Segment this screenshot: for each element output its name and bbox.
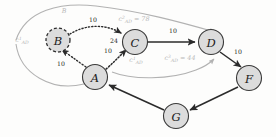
annotation-c3-ad-mid: c3AD = 44 <box>165 54 196 63</box>
annotation-c1-ad-left: c1AD <box>15 36 29 45</box>
edge-a-to-b <box>62 50 86 67</box>
annotation-arc-mid <box>112 59 214 78</box>
node-C[interactable]: C <box>123 30 148 55</box>
node-G[interactable]: G <box>164 104 189 129</box>
node-F[interactable]: F <box>237 66 262 91</box>
node-B-label: B <box>53 34 62 48</box>
annotation-arcs <box>16 5 215 86</box>
edge-b-to-c <box>70 26 121 34</box>
weight-b-to-c: 10 <box>89 16 97 23</box>
edge-f-to-g <box>190 87 238 110</box>
node-B[interactable]: B <box>46 28 70 52</box>
annotation-b-marker-top: B <box>61 7 67 15</box>
node-D[interactable]: D <box>199 30 224 55</box>
dotted-edges <box>62 26 126 69</box>
weight-inbound-c: 24 <box>110 37 118 44</box>
weight-d-to-f: 10 <box>234 48 242 55</box>
node-F-label: F <box>244 72 254 86</box>
node-C-label: C <box>131 36 140 50</box>
weight-c-to-d: 10 <box>169 27 177 34</box>
node-A-label: A <box>90 71 99 85</box>
node-A[interactable]: A <box>83 65 108 90</box>
edge-g-to-a <box>109 85 164 110</box>
graph-svg: A B C D F G 10 <box>0 0 276 137</box>
annotation-c1-ad-mid: c1AD <box>129 56 143 65</box>
annotation-arc-outer-bottom <box>16 44 84 86</box>
weight-a-to-b: 10 <box>57 60 65 67</box>
node-D-label: D <box>205 36 215 50</box>
weight-a-to-c: 10 <box>104 47 112 54</box>
annotation-arc-outer-top <box>16 5 215 40</box>
node-G-label: G <box>171 110 180 124</box>
cost-annotations: c1AD c2AD = 78 c1AD c3AD = 44 B <box>15 7 195 65</box>
annot-sub-0: AD <box>21 40 29 45</box>
annotation-c2-ad-top: c2AD = 78 <box>119 15 150 24</box>
annot-sub-2: AD <box>135 60 143 65</box>
annot-suffix-1: = 78 <box>132 15 150 23</box>
diagram-canvas: A B C D F G 10 <box>0 0 276 137</box>
annot-suffix-3: = 44 <box>178 54 196 62</box>
